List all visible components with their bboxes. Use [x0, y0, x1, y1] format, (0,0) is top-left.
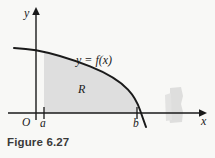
- figure-container: y x O a b y = f(x) R Figure 6.27: [0, 0, 215, 158]
- figure-graphic: y x O a b y = f(x) R: [0, 0, 215, 140]
- tick-label-a: a: [40, 117, 46, 129]
- x-axis-label: x: [200, 114, 207, 128]
- region-label: R: [77, 82, 86, 96]
- origin-label: O: [22, 116, 31, 128]
- curve-label: y = f(x): [75, 53, 112, 67]
- scan-artifact: [165, 87, 183, 123]
- figure-caption: Figure 6.27: [7, 136, 69, 148]
- y-axis: [32, 7, 40, 120]
- tick-label-b: b: [133, 117, 139, 129]
- y-axis-label: y: [23, 6, 30, 20]
